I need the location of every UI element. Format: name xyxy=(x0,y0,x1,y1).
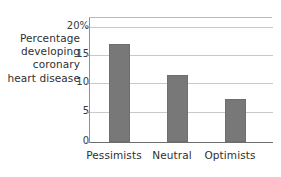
y-tick-mark-20 xyxy=(86,27,90,28)
y-tick-label-0: 0 xyxy=(49,136,89,146)
y-tick-mark-5 xyxy=(86,112,90,113)
x-tick-label-optimists: Optimists xyxy=(190,149,270,161)
y-axis-title-line-1: Percentage xyxy=(0,32,80,45)
y-tick-label-20: 20% xyxy=(49,21,89,31)
bar-pessimists xyxy=(109,44,130,142)
bar-neutral xyxy=(167,75,188,142)
y-tick-label-10: 10 xyxy=(49,77,89,87)
bar-chart: Percentage developing coronary heart dis… xyxy=(0,0,281,177)
plot-area xyxy=(89,17,272,142)
y-tick-label-5: 5 xyxy=(49,106,89,116)
y-axis-title-line-3: coronary xyxy=(0,58,80,71)
y-tick-mark-15 xyxy=(86,55,90,56)
y-tick-label-15: 15 xyxy=(49,49,89,59)
bar-optimists xyxy=(225,99,246,143)
y-tick-mark-10 xyxy=(86,83,90,84)
gridline-20 xyxy=(90,27,273,28)
y-tick-mark-0 xyxy=(86,142,90,143)
